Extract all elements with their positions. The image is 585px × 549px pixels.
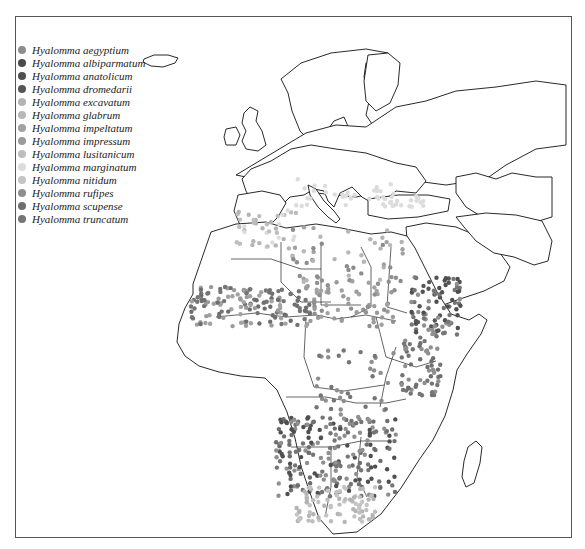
legend-item: Hyalomma nitidum — [18, 173, 145, 186]
occurrence-point — [302, 249, 306, 253]
occurrence-point — [288, 454, 292, 458]
occurrence-point — [275, 231, 279, 235]
occurrence-point — [311, 246, 315, 250]
occurrence-point — [351, 266, 355, 270]
occurrence-point — [312, 420, 316, 424]
occurrence-point — [347, 273, 351, 277]
occurrence-point — [267, 229, 271, 233]
occurrence-point — [437, 286, 441, 290]
occurrence-point — [299, 472, 303, 476]
occurrence-point — [394, 432, 398, 436]
occurrence-point — [433, 318, 437, 322]
occurrence-point — [427, 280, 431, 284]
occurrence-point — [375, 324, 379, 328]
occurrence-point — [433, 324, 437, 328]
occurrence-point — [388, 265, 392, 269]
occurrence-point — [285, 421, 289, 425]
occurrence-point — [392, 439, 396, 443]
occurrence-point — [295, 260, 299, 264]
occurrence-point — [409, 362, 413, 366]
occurrence-point — [286, 208, 290, 212]
occurrence-point — [354, 472, 358, 476]
occurrence-point — [326, 451, 330, 455]
occurrence-point — [304, 324, 308, 328]
occurrence-point — [389, 275, 393, 279]
occurrence-point — [333, 426, 337, 430]
occurrence-point — [196, 295, 200, 299]
occurrence-point — [334, 469, 338, 473]
occurrence-point — [329, 519, 333, 523]
occurrence-point — [417, 304, 421, 308]
occurrence-point — [273, 315, 277, 319]
occurrence-point — [425, 348, 429, 352]
occurrence-point — [387, 439, 391, 443]
legend-item: Hyalomma dromedarii — [18, 82, 145, 95]
occurrence-point — [349, 482, 353, 486]
occurrence-point — [326, 355, 330, 359]
occurrence-point — [414, 194, 418, 198]
occurrence-point — [438, 374, 442, 378]
occurrence-point — [388, 243, 392, 247]
ireland — [224, 127, 240, 145]
occurrence-point — [369, 477, 373, 481]
occurrence-point — [359, 271, 363, 275]
madagascar — [462, 441, 482, 487]
occurrence-point — [251, 239, 255, 243]
occurrence-point — [436, 367, 440, 371]
occurrence-point — [265, 300, 269, 304]
occurrence-point — [418, 335, 422, 339]
occurrence-point — [257, 293, 261, 297]
occurrence-point — [338, 464, 342, 468]
occurrence-point — [305, 261, 309, 265]
occurrence-point — [384, 407, 388, 411]
occurrence-point — [373, 485, 377, 489]
occurrence-point — [345, 443, 349, 447]
occurrence-point — [306, 518, 310, 522]
occurrence-point — [281, 454, 285, 458]
occurrence-point — [390, 195, 394, 199]
occurrence-point — [349, 306, 353, 310]
occurrence-point — [308, 196, 312, 200]
occurrence-point — [320, 242, 324, 246]
legend-item: Hyalomma impressum — [18, 134, 145, 147]
occurrence-point — [191, 316, 195, 320]
occurrence-point — [372, 368, 376, 372]
occurrence-point — [450, 298, 454, 302]
occurrence-point — [373, 354, 377, 358]
occurrence-point — [391, 315, 395, 319]
occurrence-point — [442, 306, 446, 310]
occurrence-point — [455, 332, 459, 336]
occurrence-point — [399, 203, 403, 207]
occurrence-point — [395, 199, 399, 203]
occurrence-point — [371, 515, 375, 519]
occurrence-point — [270, 292, 274, 296]
occurrence-point — [312, 311, 316, 315]
occurrence-point — [346, 454, 350, 458]
occurrence-point — [289, 484, 293, 488]
occurrence-point — [335, 388, 339, 392]
occurrence-point — [430, 381, 434, 385]
occurrence-point — [358, 461, 362, 465]
occurrence-point — [298, 309, 302, 313]
occurrence-point — [295, 422, 299, 426]
occurrence-point — [302, 317, 306, 321]
legend-dot-icon — [18, 202, 26, 210]
occurrence-point — [282, 434, 286, 438]
occurrence-point — [306, 436, 310, 440]
occurrence-point — [294, 211, 298, 215]
occurrence-point — [288, 450, 292, 454]
occurrence-point — [407, 377, 411, 381]
occurrence-point — [425, 365, 429, 369]
occurrence-point — [346, 302, 350, 306]
occurrence-point — [206, 291, 210, 295]
occurrence-point — [296, 177, 300, 181]
occurrence-point — [260, 226, 264, 230]
occurrence-point — [444, 276, 448, 280]
occurrence-point — [316, 316, 320, 320]
occurrence-point — [324, 398, 328, 402]
occurrence-point — [347, 360, 351, 364]
occurrence-point — [303, 309, 307, 313]
occurrence-point — [379, 323, 383, 327]
occurrence-point — [328, 446, 332, 450]
occurrence-point — [335, 493, 339, 497]
